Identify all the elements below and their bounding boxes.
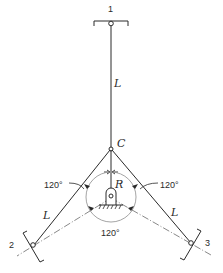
radius-label: R bbox=[114, 178, 123, 191]
ground-hatch-icon bbox=[99, 205, 121, 209]
anchor-2-label: 2 bbox=[9, 240, 14, 250]
anchor-3: 3 bbox=[180, 229, 210, 260]
ground-pivot bbox=[99, 188, 123, 209]
anchor-1-label: 1 bbox=[108, 4, 113, 14]
angle-left-label: 120° bbox=[44, 180, 63, 190]
pivot-pin-icon bbox=[109, 194, 113, 198]
anchor-2: 2 bbox=[9, 231, 44, 262]
link-left-label: L bbox=[42, 209, 50, 222]
anchor-3-label: 3 bbox=[205, 238, 210, 248]
anchor-3-pin-icon bbox=[189, 241, 194, 246]
angle-bottom-label: 120° bbox=[101, 228, 120, 238]
link-right-label: L bbox=[170, 206, 178, 219]
anchor-1-pin-icon bbox=[109, 21, 114, 26]
link-right bbox=[112, 150, 191, 243]
angle-right-label: 120° bbox=[160, 180, 179, 190]
center-node-label: C bbox=[117, 137, 126, 150]
centerline-right bbox=[111, 198, 211, 255]
anchor-1: 1 bbox=[94, 4, 128, 26]
anchor-2-pin-icon bbox=[31, 243, 36, 248]
link-geometry-diagram: 1 L C L L R 120° 120° 120° bbox=[0, 0, 223, 273]
link-top-label: L bbox=[113, 77, 121, 90]
link-left bbox=[34, 150, 110, 245]
